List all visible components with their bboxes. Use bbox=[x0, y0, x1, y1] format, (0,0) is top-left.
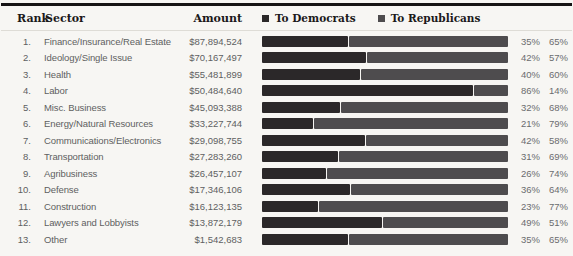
democrat-bar-segment bbox=[262, 184, 350, 195]
legend-label-democrats: To Democrats bbox=[275, 12, 356, 24]
democrat-bar-segment bbox=[262, 52, 366, 63]
table-header: Rank Sector Amount To Democrats To Repub… bbox=[0, 9, 573, 29]
republican-percent: 60% bbox=[544, 69, 568, 80]
percent-cell: 36% 64% bbox=[508, 184, 573, 195]
republican-bar-segment bbox=[383, 217, 508, 228]
party-split-bar bbox=[262, 85, 508, 96]
democrat-bar-segment bbox=[262, 168, 326, 179]
amount-column-header: Amount bbox=[180, 12, 242, 25]
table-row: 4. Labor $50,484,640 86% 14% bbox=[0, 83, 573, 100]
party-split-bar bbox=[262, 135, 508, 146]
amount-cell: $70,167,497 bbox=[180, 52, 242, 63]
republican-percent: 57% bbox=[544, 52, 568, 63]
republican-bar-segment bbox=[361, 69, 508, 80]
democrat-bar-segment bbox=[262, 135, 365, 146]
democrat-percent: 32% bbox=[516, 102, 540, 113]
bar-cell bbox=[262, 102, 508, 113]
table-row: 7. Communications/Electronics $29,098,75… bbox=[0, 132, 573, 149]
democrat-bar-segment bbox=[262, 118, 313, 129]
republican-bar-segment bbox=[327, 168, 508, 179]
democrat-bar-segment bbox=[262, 201, 318, 212]
table-row: 13. Other $1,542,683 35% 65% bbox=[0, 231, 573, 248]
democrat-bar-segment bbox=[262, 217, 382, 228]
percent-cell: 31% 69% bbox=[508, 151, 573, 162]
rank-cell: 5. bbox=[0, 102, 31, 113]
rank-cell: 3. bbox=[0, 69, 31, 80]
amount-cell: $33,227,744 bbox=[180, 118, 242, 129]
party-split-bar bbox=[262, 234, 508, 245]
republican-percent: 77% bbox=[544, 201, 568, 212]
header-divider bbox=[1, 30, 572, 31]
rank-cell: 6. bbox=[0, 118, 31, 129]
table-row: 11. Construction $16,123,135 23% 77% bbox=[0, 198, 573, 215]
sector-cell: Energy/Natural Resources bbox=[44, 118, 180, 129]
table-row: 9. Agribusiness $26,457,107 26% 74% bbox=[0, 165, 573, 182]
party-split-bar bbox=[262, 52, 508, 63]
democrat-swatch-icon bbox=[262, 15, 269, 22]
democrat-percent: 31% bbox=[516, 151, 540, 162]
rank-cell: 11. bbox=[0, 201, 31, 212]
percent-cell: 86% 14% bbox=[508, 85, 573, 96]
republican-percent: 51% bbox=[544, 217, 568, 228]
republican-percent: 65% bbox=[544, 36, 568, 47]
legend-item-republicans: To Republicans bbox=[378, 12, 481, 24]
amount-cell: $50,484,640 bbox=[180, 85, 242, 96]
democrat-percent: 36% bbox=[516, 184, 540, 195]
republican-percent: 79% bbox=[544, 118, 568, 129]
percent-cell: 23% 77% bbox=[508, 201, 573, 212]
democrat-percent: 42% bbox=[516, 52, 540, 63]
republican-bar-segment bbox=[339, 151, 508, 162]
democrat-percent: 86% bbox=[516, 85, 540, 96]
amount-cell: $26,457,107 bbox=[180, 168, 242, 179]
table-row: 6. Energy/Natural Resources $33,227,744 … bbox=[0, 116, 573, 133]
sector-cell: Transportation bbox=[44, 151, 180, 162]
republican-bar-segment bbox=[314, 118, 508, 129]
democrat-bar-segment bbox=[262, 102, 340, 113]
amount-cell: $87,894,524 bbox=[180, 36, 242, 47]
sector-cell: Labor bbox=[44, 85, 180, 96]
democrat-percent: 42% bbox=[516, 135, 540, 146]
republican-bar-segment bbox=[341, 102, 508, 113]
bar-cell bbox=[262, 201, 508, 212]
contributions-by-sector-chart: Rank Sector Amount To Democrats To Repub… bbox=[0, 0, 573, 256]
democrat-percent: 35% bbox=[516, 234, 540, 245]
sector-column-header: Sector bbox=[45, 12, 85, 25]
sector-cell: Other bbox=[44, 234, 180, 245]
party-split-bar bbox=[262, 201, 508, 212]
republican-percent: 65% bbox=[544, 234, 568, 245]
bar-cell bbox=[262, 118, 508, 129]
democrat-bar-segment bbox=[262, 234, 348, 245]
sector-cell: Misc. Business bbox=[44, 102, 180, 113]
rank-cell: 8. bbox=[0, 151, 31, 162]
table-row: 1. Finance/Insurance/Real Estate $87,894… bbox=[0, 33, 573, 50]
rank-cell: 1. bbox=[0, 36, 31, 47]
party-split-bar bbox=[262, 151, 508, 162]
republican-percent: 68% bbox=[544, 102, 568, 113]
bar-cell bbox=[262, 217, 508, 228]
sector-cell: Finance/Insurance/Real Estate bbox=[44, 36, 180, 47]
sector-cell: Health bbox=[44, 69, 180, 80]
top-rule bbox=[1, 3, 572, 6]
table-row: 8. Transportation $27,283,260 31% 69% bbox=[0, 149, 573, 166]
republican-percent: 74% bbox=[544, 168, 568, 179]
bar-cell bbox=[262, 234, 508, 245]
amount-cell: $45,093,388 bbox=[180, 102, 242, 113]
percent-cell: 35% 65% bbox=[508, 234, 573, 245]
rank-cell: 12. bbox=[0, 217, 31, 228]
republican-bar-segment bbox=[349, 234, 508, 245]
bar-cell bbox=[262, 36, 508, 47]
republican-bar-segment bbox=[319, 201, 508, 212]
sector-cell: Lawyers and Lobbyists bbox=[44, 217, 180, 228]
percent-cell: 35% 65% bbox=[508, 36, 573, 47]
percent-cell: 26% 74% bbox=[508, 168, 573, 179]
legend-label-republicans: To Republicans bbox=[391, 12, 481, 24]
democrat-percent: 40% bbox=[516, 69, 540, 80]
sector-cell: Defense bbox=[44, 184, 180, 195]
percent-cell: 32% 68% bbox=[508, 102, 573, 113]
table-row: 12. Lawyers and Lobbyists $13,872,179 49… bbox=[0, 215, 573, 232]
republican-bar-segment bbox=[474, 85, 508, 96]
sector-cell: Construction bbox=[44, 201, 180, 212]
republican-bar-segment bbox=[366, 135, 508, 146]
amount-cell: $13,872,179 bbox=[180, 217, 242, 228]
sector-cell: Ideology/Single Issue bbox=[44, 52, 180, 63]
